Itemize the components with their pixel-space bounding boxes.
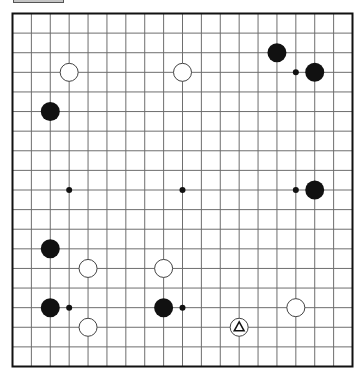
black-stone[interactable]	[41, 102, 60, 121]
white-stone[interactable]	[174, 63, 192, 81]
white-stone[interactable]	[287, 299, 305, 317]
star-point	[66, 305, 72, 311]
white-stone-disc	[79, 259, 97, 277]
white-stone[interactable]	[79, 259, 97, 277]
white-stone[interactable]	[155, 259, 173, 277]
black-stone[interactable]	[41, 239, 60, 258]
star-point	[293, 187, 299, 193]
white-stone[interactable]	[79, 318, 97, 336]
black-stone[interactable]	[305, 63, 324, 82]
white-stone-disc	[287, 299, 305, 317]
black-stone[interactable]	[41, 298, 60, 317]
white-stone-disc	[60, 63, 78, 81]
star-point	[180, 187, 186, 193]
star-point	[293, 69, 299, 75]
black-stone[interactable]	[267, 43, 286, 62]
black-stone[interactable]	[154, 298, 173, 317]
white-stone-disc	[155, 259, 173, 277]
black-stone-disc	[154, 298, 173, 317]
white-stone[interactable]	[60, 63, 78, 81]
white-stone-disc	[79, 318, 97, 336]
black-stone-disc	[305, 63, 324, 82]
white-stone-disc	[174, 63, 192, 81]
black-stone-disc	[305, 181, 324, 200]
star-point	[66, 187, 72, 193]
go-board[interactable]	[0, 0, 364, 379]
black-stone-disc	[41, 298, 60, 317]
black-stone-disc	[41, 102, 60, 121]
white-stone[interactable]	[230, 318, 248, 336]
black-stone-disc	[41, 239, 60, 258]
star-point	[180, 305, 186, 311]
black-stone-disc	[267, 43, 286, 62]
black-stone[interactable]	[305, 181, 324, 200]
